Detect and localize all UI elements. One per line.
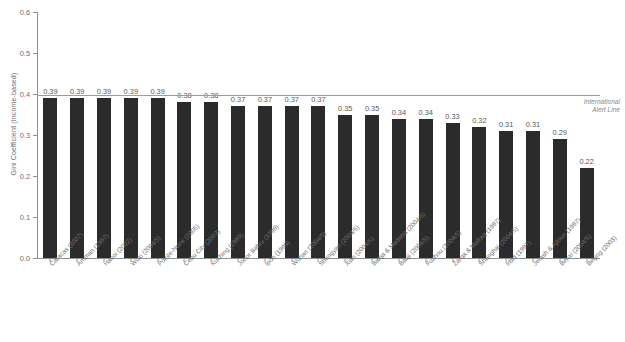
bar[interactable] (43, 98, 57, 258)
bar-slot: 0.37 (278, 12, 305, 258)
bar-value-label: 0.37 (258, 95, 272, 104)
x-axis-tick-label: Balqa & Madaba (2004/5) (370, 262, 375, 267)
bar-value-label: 0.34 (392, 108, 406, 117)
bar-value-label: 0.32 (472, 116, 486, 125)
y-axis-tick-label: 0.4 (0, 90, 30, 99)
bar-value-label: 0.35 (338, 104, 352, 113)
bar-slot: 0.37 (305, 12, 332, 258)
bar-value-label: 0.33 (445, 112, 459, 121)
y-axis-tick-label: 0.3 (0, 131, 30, 140)
x-axis-label-group: Caracas (2007)Amman (1997)Hanoi (2002)Wu… (37, 258, 600, 342)
bar-value-label: 0.37 (231, 95, 245, 104)
bar[interactable] (124, 98, 138, 258)
bar-slot: 0.39 (37, 12, 64, 258)
bar-value-label: 0.31 (526, 120, 540, 129)
bar-slot: 0.37 (225, 12, 252, 258)
bar-value-label: 0.37 (311, 95, 325, 104)
international-alert-line-label: International Alert Line (556, 98, 620, 114)
bar-slot: 0.31 (520, 12, 547, 258)
international-alert-line (37, 95, 600, 96)
x-axis-tick-label: Kuching (1999) (209, 262, 214, 267)
bar-slot: 0.38 (171, 12, 198, 258)
x-axis-tick-label: Caracas (2007) (48, 262, 53, 267)
bar-value-label: 0.31 (499, 120, 513, 129)
bar-slot: 0.34 (386, 12, 413, 258)
x-axis-tick-label: Irbid (1997) (504, 262, 509, 267)
plot-area: 0.390.390.390.390.390.380.380.370.370.37… (37, 12, 600, 258)
bar-slot: 0.39 (64, 12, 91, 258)
bar-value-label: 0.29 (553, 128, 567, 137)
x-axis-tick-label: Amman (1997) (75, 262, 80, 267)
x-axis-tick-label: Cebu City (2003) (182, 262, 187, 267)
bar-slot: 0.35 (332, 12, 359, 258)
bar-slot: 0.32 (466, 12, 493, 258)
x-axis-tick-label: Jerash & Ajloun (1997) (531, 262, 536, 267)
x-axis-tick-label: Wuxi (2004/5) (129, 262, 134, 267)
bar-slot: 0.35 (359, 12, 386, 258)
x-axis-tick-label: Zarqa & Mafraq (1997) (451, 262, 456, 267)
bar-slot: 0.38 (198, 12, 225, 258)
x-axis-tick-label: Fuzhou (2004/5) (424, 262, 429, 267)
bar-slot: 0.29 (546, 12, 573, 258)
x-axis-tick-label: Hanoi (2002) (102, 262, 107, 267)
bar-value-label: 0.22 (579, 157, 593, 166)
x-axis-tick-label: Ipoh (1999) (263, 262, 268, 267)
bar-value-label: 0.35 (365, 104, 379, 113)
x-axis-tick-label: Johor Bahru (1999) (236, 262, 241, 267)
x-axis-tick-label: Xian (2004/5) (343, 262, 348, 267)
y-axis-tick-label: 0.1 (0, 213, 30, 222)
y-axis-tick-label: 0.5 (0, 49, 30, 58)
x-axis-tick-label: Shanghai (2004/5) (477, 262, 482, 267)
bar-value-label: 0.34 (419, 108, 433, 117)
y-axis-tick-label: 0.0 (0, 254, 30, 263)
alert-line-label-line2: Alert Line (556, 106, 620, 114)
bar-slot: 0.37 (251, 12, 278, 258)
x-axis-tick-label: Benxi (2004/5) (558, 262, 563, 267)
bar-slot: 0.39 (144, 12, 171, 258)
x-axis-tick-label: Shengyan (2004/5) (317, 262, 322, 267)
x-axis-tick-label: Pointe-Noire (2005) (156, 262, 161, 267)
bar[interactable] (285, 106, 299, 258)
bar-value-label: 0.37 (284, 95, 298, 104)
x-axis-tick-label: Wuhan (2004/5) (290, 262, 295, 267)
bar-slot: 0.33 (439, 12, 466, 258)
y-axis-tick-label: 0.2 (0, 172, 30, 181)
bar-slot: 0.39 (91, 12, 118, 258)
x-axis-tick-label: Beijing (2003) (585, 262, 590, 267)
y-axis-tick-label: 0.6 (0, 8, 30, 17)
gini-coefficient-bar-chart: Gini Coefficient (Income-based) 0.00.10.… (0, 0, 625, 342)
alert-line-label-line1: International (556, 98, 620, 106)
bar-slot: 0.39 (117, 12, 144, 258)
x-axis-tick-label: Baoji (2004/5) (397, 262, 402, 267)
